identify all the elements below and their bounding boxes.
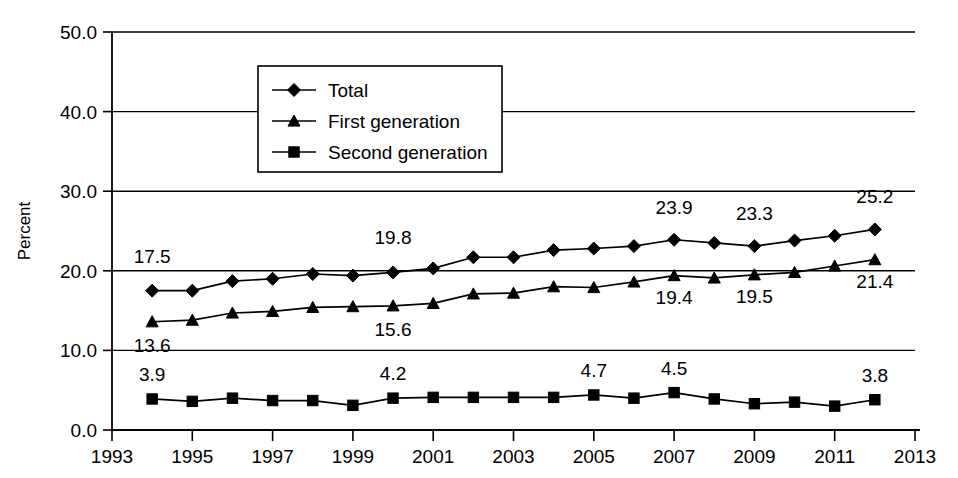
data-label: 13.6 bbox=[134, 335, 171, 356]
data-marker-square bbox=[468, 392, 478, 402]
data-marker-diamond bbox=[387, 266, 400, 279]
data-marker-square bbox=[789, 397, 799, 407]
y-tick-label: 0.0 bbox=[71, 420, 97, 441]
x-tick-label: 1993 bbox=[91, 446, 133, 467]
x-tick-label: 2007 bbox=[653, 446, 695, 467]
data-marker-diamond bbox=[507, 251, 520, 264]
x-tick-label: 2005 bbox=[573, 446, 615, 467]
data-marker-square bbox=[589, 390, 599, 400]
data-label: 25.2 bbox=[856, 186, 893, 207]
data-label: 4.5 bbox=[661, 358, 687, 379]
data-marker-square bbox=[669, 387, 679, 397]
legend-label: Total bbox=[328, 80, 368, 101]
data-label: 19.5 bbox=[736, 286, 773, 307]
y-tick-label: 20.0 bbox=[60, 261, 97, 282]
data-marker-diamond bbox=[427, 262, 440, 275]
data-marker-diamond bbox=[587, 242, 600, 255]
data-marker-diamond bbox=[146, 284, 159, 297]
data-marker-square bbox=[267, 395, 277, 405]
data-label: 4.7 bbox=[581, 360, 607, 381]
data-marker-square bbox=[428, 392, 438, 402]
data-label: 23.9 bbox=[656, 197, 693, 218]
line-chart: 0.010.020.030.040.050.019931995199719992… bbox=[0, 0, 958, 478]
data-marker-square bbox=[830, 401, 840, 411]
data-marker-diamond bbox=[828, 229, 841, 242]
data-label: 3.8 bbox=[862, 365, 888, 386]
data-marker-diamond bbox=[868, 223, 881, 236]
data-marker-triangle bbox=[869, 254, 881, 265]
data-label: 3.9 bbox=[139, 364, 165, 385]
data-marker-diamond bbox=[226, 275, 239, 288]
data-label: 4.2 bbox=[380, 363, 406, 384]
data-marker-square bbox=[187, 396, 197, 406]
x-tick-label: 2003 bbox=[492, 446, 534, 467]
data-label: 19.4 bbox=[656, 287, 693, 308]
data-marker-diamond bbox=[788, 234, 801, 247]
x-tick-label: 2001 bbox=[412, 446, 454, 467]
data-marker-legend-square bbox=[289, 147, 299, 157]
data-marker-diamond bbox=[708, 236, 721, 249]
y-axis-title: Percent bbox=[15, 201, 34, 260]
data-marker-diamond bbox=[266, 272, 279, 285]
x-tick-label: 1999 bbox=[332, 446, 374, 467]
y-tick-label: 40.0 bbox=[60, 102, 97, 123]
data-marker-square bbox=[629, 393, 639, 403]
data-marker-square bbox=[548, 392, 558, 402]
chart-canvas: 0.010.020.030.040.050.019931995199719992… bbox=[0, 0, 958, 478]
data-label: 19.8 bbox=[375, 227, 412, 248]
data-marker-square bbox=[388, 393, 398, 403]
data-marker-square bbox=[348, 400, 358, 410]
x-tick-label: 1995 bbox=[171, 446, 213, 467]
data-marker-diamond bbox=[547, 244, 560, 257]
y-tick-label: 50.0 bbox=[60, 22, 97, 43]
x-tick-label: 2013 bbox=[894, 446, 936, 467]
data-marker-diamond bbox=[467, 251, 480, 264]
data-marker-diamond bbox=[306, 267, 319, 280]
data-label: 23.3 bbox=[736, 203, 773, 224]
data-marker-square bbox=[749, 399, 759, 409]
data-marker-square bbox=[147, 394, 157, 404]
data-marker-square bbox=[308, 395, 318, 405]
y-tick-label: 30.0 bbox=[60, 181, 97, 202]
data-label: 15.6 bbox=[375, 319, 412, 340]
legend-label: Second generation bbox=[328, 142, 488, 163]
x-tick-label: 1997 bbox=[251, 446, 293, 467]
y-tick-label: 10.0 bbox=[60, 340, 97, 361]
data-label: 17.5 bbox=[134, 246, 171, 267]
data-marker-square bbox=[227, 393, 237, 403]
data-marker-diamond bbox=[627, 240, 640, 253]
legend-label: First generation bbox=[328, 111, 460, 132]
data-marker-diamond bbox=[668, 233, 681, 246]
x-tick-label: 2009 bbox=[733, 446, 775, 467]
data-marker-square bbox=[870, 395, 880, 405]
x-tick-label: 2011 bbox=[814, 446, 855, 467]
data-marker-diamond bbox=[186, 284, 199, 297]
data-marker-square bbox=[709, 394, 719, 404]
data-marker-diamond bbox=[748, 240, 761, 253]
data-marker-square bbox=[508, 392, 518, 402]
data-label: 21.4 bbox=[856, 271, 893, 292]
